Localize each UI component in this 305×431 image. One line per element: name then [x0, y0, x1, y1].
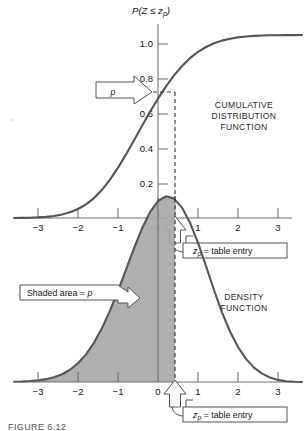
density-zp-up-arrow [164, 380, 186, 407]
density-panel: −3 −2 −1 0 1 2 3 Shaded area = p DENSITY… [14, 196, 302, 422]
density-x-label-1: 1 [195, 386, 200, 397]
scan-speck [17, 294, 19, 296]
figure-caption: FIGURE 6.12 [8, 422, 66, 431]
cdf-x-label--2: −2 [73, 222, 84, 233]
density-x-label--1: −1 [113, 386, 124, 397]
cdf-x-label-2: 2 [235, 222, 240, 233]
cdf-panel-label-line-3: FUNCTION [220, 122, 267, 132]
cdf-y-ticks: 1.0 0.8 0.6 0.4 0.2 [140, 38, 168, 189]
density-panel-label: DENSITY FUNCTION [220, 292, 267, 313]
density-panel-label-line-1: DENSITY [224, 292, 264, 302]
cdf-axis-title: P(Z ≤ zp) [132, 5, 170, 18]
density-x-label-3: 3 [275, 386, 280, 397]
cdf-x-label-1: 1 [195, 222, 200, 233]
cdf-x-label-3: 3 [275, 222, 280, 233]
shaded-area-callout-label: Shaded area = p [27, 288, 92, 298]
cdf-panel-label-line-1: CUMULATIVE [215, 100, 273, 110]
cdf-panel-label-line-2: DISTRIBUTION [212, 111, 277, 121]
density-zp-leader-curve [172, 407, 184, 416]
cdf-y-label-1.0: 1.0 [140, 38, 153, 49]
cdf-y-label-0.4: 0.4 [140, 143, 153, 154]
cdf-x-label--1: −1 [113, 222, 124, 233]
probability-arrow-label: p [110, 87, 116, 97]
cdf-x-label--3: −3 [33, 222, 44, 233]
scan-speck [11, 119, 13, 121]
density-x-label--3: −3 [33, 386, 44, 397]
figure-canvas: P(Z ≤ zp) 1.0 0.8 0.6 0.4 0.2 [0, 0, 305, 431]
density-x-label-0: 0 [155, 386, 160, 397]
statistics-figure: P(Z ≤ zp) 1.0 0.8 0.6 0.4 0.2 [0, 0, 305, 431]
cdf-panel-label: CUMULATIVE DISTRIBUTION FUNCTION [212, 100, 277, 132]
density-x-label--2: −2 [73, 386, 84, 397]
density-panel-label-line-2: FUNCTION [220, 303, 267, 313]
density-table-entry-callout: zp = table entry [183, 407, 287, 422]
density-x-label-2: 2 [235, 386, 240, 397]
cdf-y-label-0.2: 0.2 [140, 178, 153, 189]
